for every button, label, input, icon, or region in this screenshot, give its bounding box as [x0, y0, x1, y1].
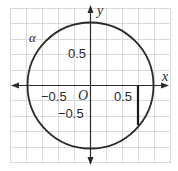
tick-label-y-neg: −0.5	[58, 107, 84, 120]
x-axis-label: x	[162, 70, 168, 84]
tick-label-x-neg: −0.5	[41, 90, 67, 103]
unit-circle-diagram	[0, 0, 178, 171]
y-axis-down-arrow-icon	[88, 157, 94, 165]
x-axis-left-arrow-icon	[11, 83, 19, 89]
y-axis-label: y	[97, 4, 103, 18]
origin-label: O	[78, 89, 88, 103]
angle-label: α	[29, 31, 36, 44]
tick-label-x-pos: 0.5	[114, 90, 132, 103]
tick-label-y-pos: 0.5	[68, 47, 86, 60]
